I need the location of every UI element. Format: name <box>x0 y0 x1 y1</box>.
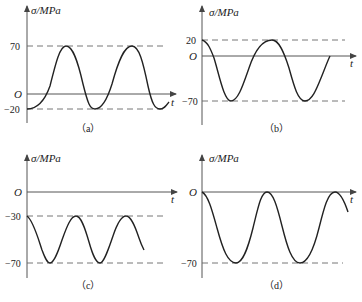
x-axis-label: t <box>171 96 175 108</box>
tick-min: −70 <box>182 96 198 107</box>
caption-c: （c） <box>76 280 100 291</box>
tick-max: 70 <box>10 41 20 52</box>
y-axis-label: σ/MPa <box>209 152 239 164</box>
stress-cycle-figure: σ/MPa t O 70 −20 （a） σ/MPa t O 20 −70 （b… <box>0 0 362 302</box>
tick-max: −30 <box>5 211 21 222</box>
panel-b: σ/MPa t O 20 −70 （b） <box>182 6 356 134</box>
panel-c: σ/MPa t O −30 −70 （c） <box>5 152 177 291</box>
stress-curve <box>27 46 169 109</box>
panel-a: σ/MPa t O 70 −20 （a） <box>4 4 176 134</box>
stress-curve <box>202 192 348 263</box>
stress-curve <box>27 216 144 263</box>
caption-d: （d） <box>264 280 289 291</box>
tick-min: −70 <box>5 258 21 269</box>
tick-max: 20 <box>186 35 196 46</box>
x-axis-label: t <box>350 57 354 69</box>
tick-min: −20 <box>4 104 20 115</box>
y-axis-label: σ/MPa <box>31 4 61 16</box>
tick-min: −70 <box>181 258 197 269</box>
origin-label: O <box>189 50 197 62</box>
panel-d: σ/MPa t O −70 （d） <box>181 152 356 291</box>
x-axis-label: t <box>171 193 175 205</box>
caption-b: （b） <box>264 123 289 134</box>
stress-curve <box>202 40 330 101</box>
y-axis-label: σ/MPa <box>31 152 61 164</box>
origin-label: O <box>14 186 22 198</box>
caption-a: （a） <box>76 123 100 134</box>
origin-label: O <box>14 88 22 100</box>
y-axis-label: σ/MPa <box>209 6 239 18</box>
origin-label: O <box>189 186 197 198</box>
x-axis-label: t <box>350 193 354 205</box>
